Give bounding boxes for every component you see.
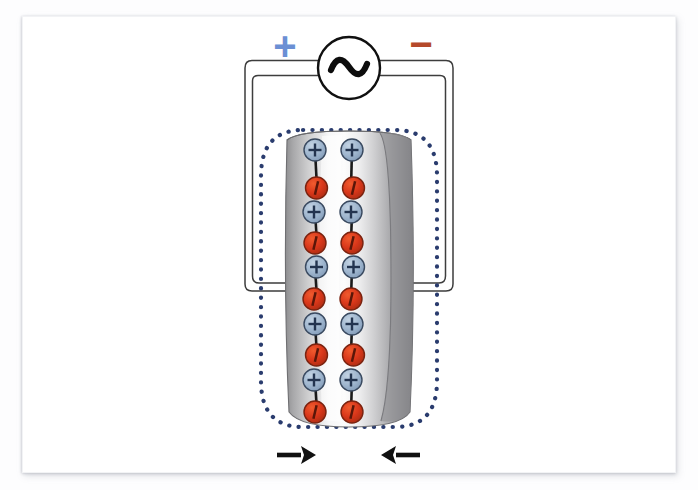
figure-root: + − [0,0,698,490]
compression-arrow-right [381,446,420,464]
compression-arrows [277,446,420,464]
polarity-plus-sign: + [268,26,302,66]
minus-glyph: − [409,22,432,66]
arrow-head [381,446,396,464]
diagram-stage: + − [0,0,698,490]
arrow-shaft [396,453,420,458]
compression-arrow-left [277,446,316,464]
plus-glyph: + [273,24,296,68]
arrow-head [301,446,316,464]
arrow-shaft [277,453,301,458]
polarity-minus-sign: − [404,24,438,64]
ac-source [318,37,380,99]
diagram-svg [0,0,698,490]
